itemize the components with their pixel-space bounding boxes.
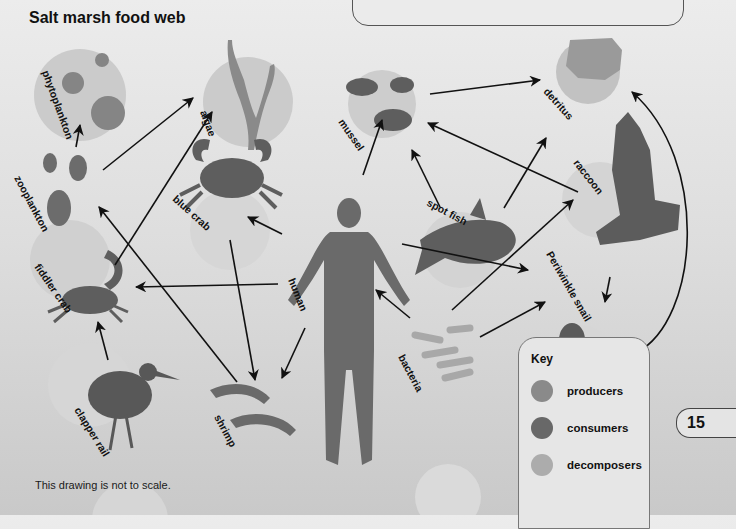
label-bacteria: bacteria (396, 352, 426, 393)
key-item-producers: producers (531, 380, 623, 402)
consumers-swatch-icon (531, 417, 553, 439)
human-icon (288, 198, 410, 465)
decomposers-swatch-icon (531, 454, 553, 476)
producers-swatch-icon (531, 380, 553, 402)
label-periwinkle-snail: Periwinkle snail (544, 249, 594, 323)
key-item-consumers: consumers (531, 417, 628, 439)
scale-note: This drawing is not to scale. (35, 479, 171, 491)
bacteria-icon (415, 328, 470, 378)
detritus-icon (566, 38, 622, 80)
crab-icon (180, 139, 282, 208)
key-title: Key (531, 352, 553, 366)
key-item-decomposers: decomposers (531, 454, 642, 476)
label-zooplankton: zooplankton (12, 173, 52, 233)
legend-key: Key producers consumers decomposers (518, 337, 650, 529)
zooplankton-icon (43, 153, 87, 226)
page-number: 15 (676, 408, 736, 438)
